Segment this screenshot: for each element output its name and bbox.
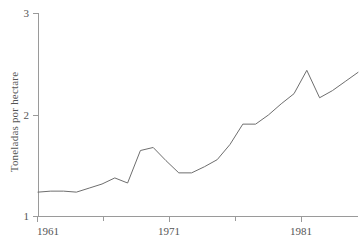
x-tick-label-1971: 1971 (158, 225, 180, 237)
y-axis-title: Toneladas por hectare (8, 72, 20, 173)
chart-container: 3 2 1 1961 1971 1981 Toneladas por hecta… (0, 0, 362, 245)
x-tick-label-1961: 1961 (37, 225, 59, 237)
line-chart-plot: 3 2 1 1961 1971 1981 Toneladas por hecta… (0, 0, 362, 245)
x-tick-label-1981: 1981 (290, 225, 312, 237)
y-tick-label-2: 2 (24, 109, 30, 121)
y-tick-label-1: 1 (24, 210, 30, 222)
data-series-line (38, 70, 358, 192)
y-tick-label-3: 3 (24, 7, 30, 19)
